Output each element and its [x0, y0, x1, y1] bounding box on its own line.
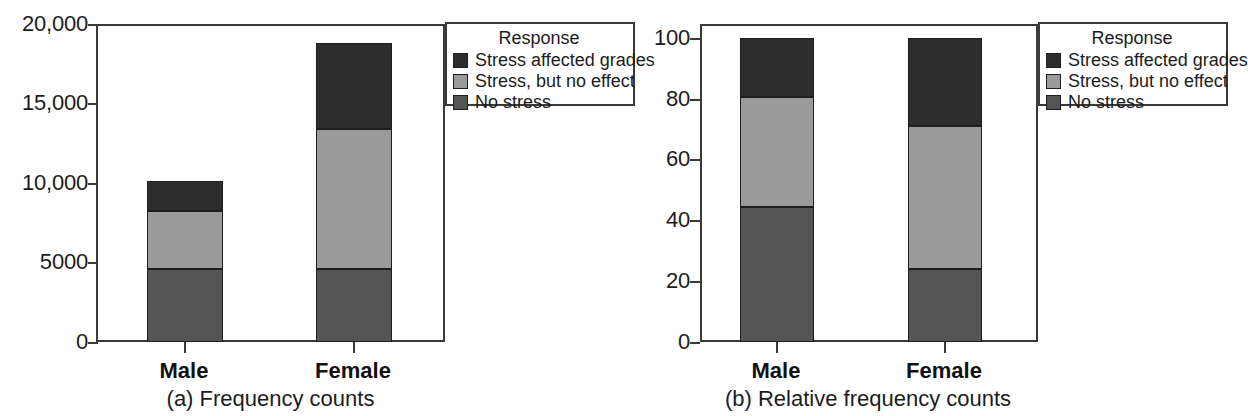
y-axis-tick-label: 0: [0, 331, 88, 353]
y-axis-tick-label: 20: [618, 270, 690, 292]
y-axis-tick-label: 20,000: [0, 13, 88, 35]
panel-caption: (a) Frequency counts: [96, 386, 445, 412]
bar-segment-no-stress[interactable]: [908, 269, 982, 342]
legend: Response Stress affected grades Stress, …: [445, 22, 635, 106]
panel-relative-frequency-counts: 100 80 60 40 20 0 Male Female (b) Relat: [618, 0, 1238, 416]
bar-segment-stress-affected-grades[interactable]: [147, 181, 223, 211]
legend-item-label: Stress affected grades: [1068, 50, 1248, 71]
legend-title: Response: [1046, 28, 1218, 49]
legend-item-no-stress[interactable]: No stress: [453, 92, 625, 113]
y-axis-tick-label: 100: [618, 27, 690, 49]
x-axis-tick-mark: [944, 342, 946, 353]
legend-swatch-icon: [453, 74, 468, 89]
legend-item-stress-affected-grades[interactable]: Stress affected grades: [1046, 50, 1218, 71]
legend-swatch-icon: [1046, 74, 1061, 89]
y-axis-tick-mark: [690, 159, 700, 161]
bar-segment-stress-but-no-effect[interactable]: [147, 211, 223, 269]
y-axis-tick-label: 40: [618, 209, 690, 231]
x-axis-label-male: Male: [706, 358, 846, 384]
legend-swatch-icon: [1046, 53, 1061, 68]
y-axis-tick-mark: [690, 220, 700, 222]
legend-item-stress-affected-grades[interactable]: Stress affected grades: [453, 50, 625, 71]
y-axis-tick-mark: [690, 99, 700, 101]
bar-segment-stress-affected-grades[interactable]: [908, 38, 982, 126]
y-axis-tick-mark: [690, 38, 700, 40]
bar-female[interactable]: [316, 43, 392, 342]
legend-swatch-icon: [453, 53, 468, 68]
bar-segment-no-stress[interactable]: [740, 207, 814, 342]
bar-segment-no-stress[interactable]: [147, 269, 223, 342]
y-axis-tick-mark: [690, 342, 700, 344]
legend-item-label: Stress, but no effect: [1068, 71, 1228, 92]
legend-item-stress-but-no-effect[interactable]: Stress, but no effect: [1046, 71, 1218, 92]
legend-swatch-icon: [453, 95, 468, 110]
bar-segment-stress-but-no-effect[interactable]: [740, 97, 814, 207]
x-axis-tick-mark: [184, 342, 186, 353]
panel-frequency-counts: 20,000 15,000 10,000 5000 0 Male Femal: [0, 0, 620, 416]
bar-segment-stress-but-no-effect[interactable]: [316, 129, 392, 269]
bar-segment-stress-but-no-effect[interactable]: [908, 126, 982, 269]
bar-segment-no-stress[interactable]: [316, 269, 392, 342]
legend-item-no-stress[interactable]: No stress: [1046, 92, 1218, 113]
legend-swatch-icon: [1046, 95, 1061, 110]
bar-segment-stress-affected-grades[interactable]: [740, 38, 814, 97]
y-axis-tick-label: 10,000: [0, 172, 88, 194]
y-axis-tick-label: 80: [618, 88, 690, 110]
y-axis-tick-label: 5000: [0, 251, 88, 273]
bar-female[interactable]: [908, 38, 982, 342]
bar-male[interactable]: [147, 181, 223, 342]
y-axis-tick-label: 60: [618, 148, 690, 170]
legend-item-label: No stress: [1068, 92, 1144, 113]
legend: Response Stress affected grades Stress, …: [1038, 22, 1228, 106]
y-axis-tick-label: 0: [618, 331, 690, 353]
bar-male[interactable]: [740, 38, 814, 342]
x-axis-tick-mark: [353, 342, 355, 353]
legend-item-label: Stress, but no effect: [475, 71, 635, 92]
legend-item-stress-but-no-effect[interactable]: Stress, but no effect: [453, 71, 625, 92]
y-axis-tick-label: 15,000: [0, 92, 88, 114]
y-axis-tick-mark: [88, 342, 98, 344]
x-axis-label-male: Male: [114, 358, 254, 384]
legend-title: Response: [453, 28, 625, 49]
bar-segment-stress-affected-grades[interactable]: [316, 43, 392, 129]
x-axis-label-female: Female: [874, 358, 1014, 384]
legend-item-label: No stress: [475, 92, 551, 113]
x-axis-label-female: Female: [283, 358, 423, 384]
x-axis-tick-mark: [776, 342, 778, 353]
panel-caption: (b) Relative frequency counts: [678, 386, 1058, 412]
y-axis-tick-mark: [690, 281, 700, 283]
